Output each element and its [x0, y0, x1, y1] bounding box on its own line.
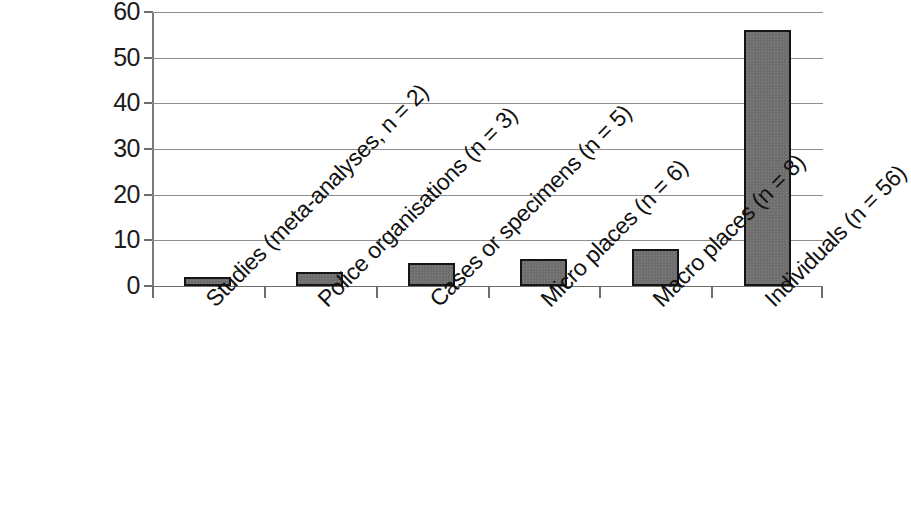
gridline-40 [152, 103, 823, 104]
x-axis-tick-labels: Studies (meta-analyses, n = 2)Police org… [0, 287, 825, 527]
gridline-60 [152, 12, 823, 13]
gridline-50 [152, 58, 823, 59]
y-tick-label-40: 40 [113, 90, 140, 115]
y-tick-label-10: 10 [113, 227, 140, 252]
y-tick-label-60: 60 [113, 0, 140, 24]
gridline-20 [152, 195, 823, 196]
y-axis-tick-labels: 60 50 40 30 20 10 0 [0, 0, 140, 300]
y-tick-label-20: 20 [113, 182, 140, 207]
y-tick-label-50: 50 [113, 45, 140, 70]
y-tick-label-30: 30 [113, 136, 140, 161]
